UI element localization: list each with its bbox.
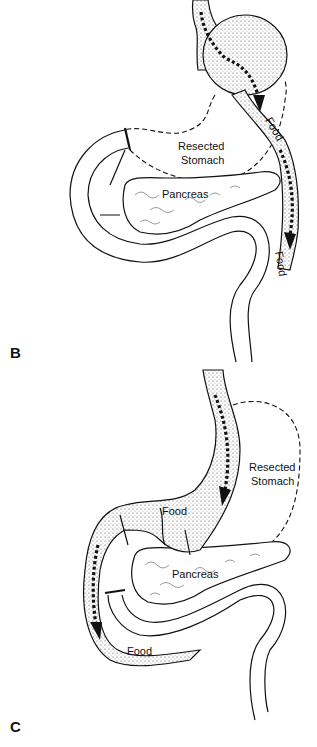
panel-c: Resected Stomach Food Pancreas Food C: [10, 370, 300, 735]
panel-label-b: B: [10, 344, 21, 361]
label-food-upper-c: Food: [162, 505, 187, 517]
stump-cut-c: [105, 590, 125, 593]
label-pancreas-c: Pancreas: [172, 568, 219, 580]
label-resected: Resected: [178, 140, 224, 152]
label-stomach-c: Stomach: [251, 475, 294, 487]
pancreas: [123, 172, 280, 234]
label-resected-c: Resected: [249, 461, 295, 473]
panel-b: Resected Stomach Pancreas Food Food B: [10, 0, 298, 362]
stump-cut: [125, 128, 130, 150]
label-pancreas: Pancreas: [162, 188, 209, 200]
surgical-diagram: Resected Stomach Pancreas Food Food B Re…: [0, 0, 317, 747]
gastric-pouch: [203, 15, 287, 95]
label-stomach: Stomach: [181, 154, 224, 166]
label-food-lower-c: Food: [127, 645, 152, 657]
panel-label-c: C: [10, 718, 21, 735]
